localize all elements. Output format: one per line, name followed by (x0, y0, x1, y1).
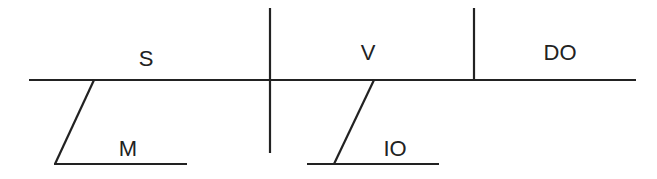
indirect-object-slant-line (334, 80, 374, 164)
indirect-object-label: IO (383, 136, 406, 161)
modifier-slant-line (55, 80, 94, 164)
sentence-diagram: S V DO M IO (0, 0, 657, 179)
modifier-label: M (119, 136, 137, 161)
direct-object-label: DO (544, 40, 577, 65)
subject-label: S (139, 46, 154, 71)
verb-label: V (361, 40, 376, 65)
